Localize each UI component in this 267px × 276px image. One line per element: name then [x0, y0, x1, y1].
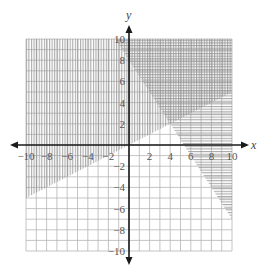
- y-tick-label: 4: [120, 97, 126, 109]
- x-tick-label: 10: [227, 150, 239, 162]
- x-tick-label: −6: [61, 150, 73, 162]
- x-tick-label: −4: [82, 150, 94, 162]
- x-axis-label: x: [250, 138, 257, 152]
- y-tick-label: −4: [113, 181, 125, 193]
- y-tick-label: 6: [120, 75, 126, 87]
- x-tick-label: 6: [188, 150, 194, 162]
- x-tick-label: 8: [209, 150, 215, 162]
- x-axis-right-arrow-icon: [241, 142, 249, 149]
- y-axis-up-arrow-icon: [126, 25, 133, 33]
- y-tick-label: −10: [108, 245, 126, 257]
- y-tick-label: −6: [113, 203, 125, 215]
- y-axis-label: y: [125, 8, 132, 22]
- y-tick-label: 10: [114, 33, 126, 45]
- y-axis-down-arrow-icon: [126, 257, 133, 265]
- x-tick-label: −8: [41, 150, 53, 162]
- y-tick-label: 8: [120, 54, 126, 66]
- y-tick-label: 2: [120, 118, 126, 130]
- y-tick-label: −8: [113, 224, 125, 236]
- inequality-graph: x y −10−8−6−4−2246810 108642−2−4−6−8−10: [0, 0, 267, 276]
- x-tick-label: −10: [17, 150, 35, 162]
- x-axis-left-arrow-icon: [10, 142, 18, 149]
- y-tick-label: −2: [113, 160, 125, 172]
- x-tick-label: 4: [167, 150, 173, 162]
- x-tick-label: 2: [147, 150, 153, 162]
